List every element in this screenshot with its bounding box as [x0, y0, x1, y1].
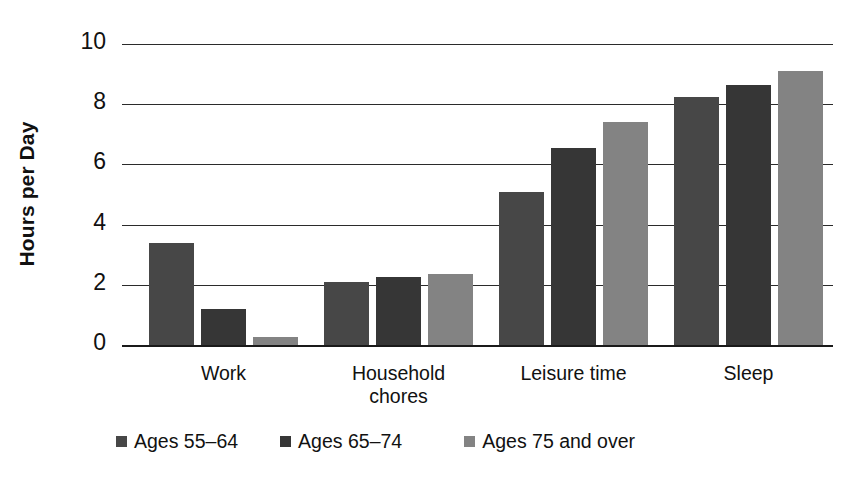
legend-item[interactable]: Ages 55–64 — [116, 432, 238, 452]
x-axis-category-label: Sleep — [659, 362, 839, 385]
x-axis-baseline — [122, 345, 833, 347]
x-axis-category-label-line: chores — [309, 385, 489, 408]
bar — [253, 337, 298, 345]
bar — [201, 309, 246, 345]
y-axis-tick-label: 6 — [46, 150, 106, 173]
x-axis-category-label-line: Household — [309, 362, 489, 385]
legend-item[interactable]: Ages 65–74 — [280, 432, 402, 452]
legend-label: Ages 55–64 — [134, 432, 238, 452]
x-axis-category-label: Work — [134, 362, 314, 385]
bar — [674, 97, 719, 345]
x-axis-category-label-line: Sleep — [659, 362, 839, 385]
legend-swatch-icon — [280, 436, 291, 447]
y-axis-tick-label: 8 — [46, 90, 106, 113]
y-axis-tick-label: 0 — [46, 331, 106, 354]
x-axis-category-label-line: Work — [134, 362, 314, 385]
x-axis-category-label-line: Leisure time — [484, 362, 664, 385]
x-axis-category-label: Householdchores — [309, 362, 489, 408]
y-axis-tick-label: 10 — [46, 30, 106, 53]
bar — [428, 274, 473, 345]
bar-chart: Hours per Day 0246810 WorkHouseholdchore… — [0, 0, 854, 493]
bar — [551, 148, 596, 345]
bar — [778, 71, 823, 345]
y-axis-tick-label: 4 — [46, 211, 106, 234]
bar — [324, 282, 369, 345]
legend-swatch-icon — [116, 436, 127, 447]
legend-item[interactable]: Ages 75 and over — [464, 432, 635, 452]
legend-label: Ages 75 and over — [482, 432, 635, 452]
bar — [149, 243, 194, 345]
bar — [376, 277, 421, 345]
legend-swatch-icon — [464, 436, 475, 447]
legend-label: Ages 65–74 — [298, 432, 402, 452]
chart-legend: Ages 55–64Ages 65–74Ages 75 and over — [116, 432, 635, 452]
y-axis-title: Hours per Day — [15, 99, 39, 289]
y-axis-tick-label: 2 — [46, 271, 106, 294]
plot-area: 0246810 — [122, 44, 833, 345]
bar — [499, 192, 544, 346]
x-axis-category-label: Leisure time — [484, 362, 664, 385]
bar — [726, 85, 771, 345]
bar — [603, 122, 648, 345]
gridline — [122, 44, 833, 45]
